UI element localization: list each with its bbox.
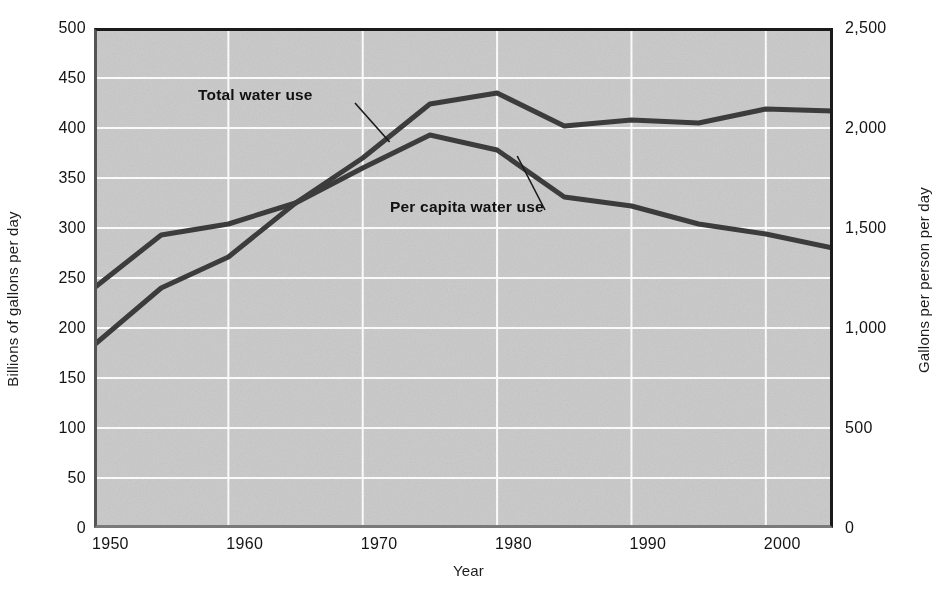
y-axis-left-title: Billions of gallons per day (0, 0, 26, 598)
y-tick-left: 0 (20, 519, 86, 537)
y-tick-left: 100 (20, 419, 86, 437)
x-tick: 1990 (629, 535, 666, 553)
y-tick-left: 350 (20, 169, 86, 187)
y-tick-right: 1,000 (845, 319, 887, 337)
y-tick-left: 500 (20, 19, 86, 37)
y-tick-left: 250 (20, 269, 86, 287)
y-tick-right: 0 (845, 519, 854, 537)
y-tick-left: 200 (20, 319, 86, 337)
x-tick: 1970 (361, 535, 398, 553)
x-tick: 1980 (495, 535, 532, 553)
series-annotation-label: Total water use (198, 86, 313, 104)
y-tick-right: 1,500 (845, 219, 887, 237)
y-tick-right: 500 (845, 419, 873, 437)
x-tick: 1960 (226, 535, 263, 553)
x-tick: 2000 (764, 535, 801, 553)
x-tick: 1950 (92, 535, 129, 553)
y-tick-left: 400 (20, 119, 86, 137)
x-axis-title: Year (0, 562, 937, 579)
y-tick-left: 150 (20, 369, 86, 387)
y-tick-left: 450 (20, 69, 86, 87)
y-tick-right: 2,500 (845, 19, 887, 37)
y-tick-left: 50 (20, 469, 86, 487)
y-tick-right: 2,000 (845, 119, 887, 137)
y-axis-right-title: Gallons per person per day (911, 0, 937, 560)
series-annotation-label: Per capita water use (390, 198, 544, 216)
y-tick-left: 300 (20, 219, 86, 237)
chart-figure: Billions of gallons per day Gallons per … (0, 0, 937, 598)
